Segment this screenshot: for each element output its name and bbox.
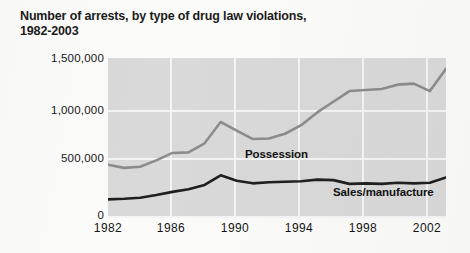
y-axis-tick-label: 1,500,000 <box>51 52 104 64</box>
x-axis-tick-label: 1986 <box>157 221 185 235</box>
x-axis-tick-labels: 1982 1986 1990 1994 1998 2002 <box>108 221 453 241</box>
x-axis-tick-label: 1994 <box>285 221 313 235</box>
y-axis-tick-label: 500,000 <box>61 152 104 164</box>
series-label-sales-manufacture: Sales/manufacture <box>333 186 434 198</box>
x-axis-tick-label: 1990 <box>221 221 249 235</box>
series-label-possession: Possession <box>245 148 308 160</box>
y-axis-tick-labels: 1,500,000 1,000,000 500,000 0 <box>0 0 104 253</box>
y-axis-tick-label: 1,000,000 <box>51 104 104 116</box>
chart-figure: Number of arrests, by type of drug law v… <box>0 0 470 253</box>
x-axis-tick-label: 1998 <box>349 221 377 235</box>
x-axis-tick-label: 1982 <box>94 221 122 235</box>
y-axis-tick-label: 0 <box>97 209 104 221</box>
x-axis-tick-label: 2002 <box>413 221 441 235</box>
plot-area: Possession Sales/manufacture <box>108 58 446 218</box>
